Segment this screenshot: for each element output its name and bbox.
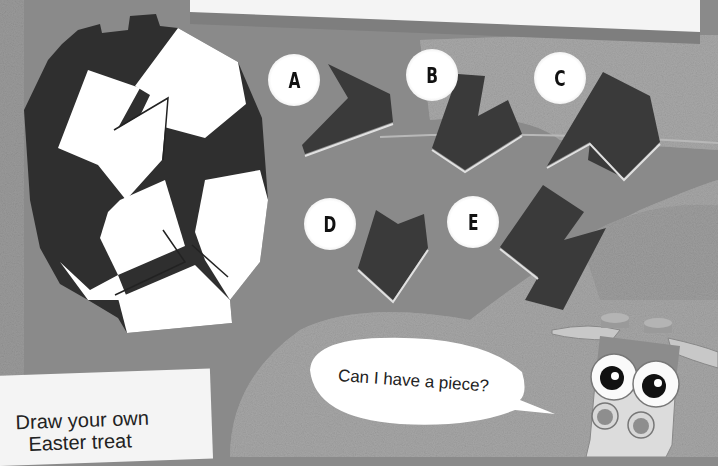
option-letter: D <box>324 212 336 237</box>
option-letter: E <box>468 210 478 235</box>
option-label-d[interactable]: D <box>304 198 356 250</box>
option-label-c[interactable]: C <box>534 52 586 104</box>
piece-d <box>358 210 428 300</box>
option-letter: A <box>288 68 299 93</box>
option-letter: C <box>555 66 566 91</box>
prompt-line-2: Easter treat <box>16 429 150 456</box>
option-label-b[interactable]: B <box>406 49 458 101</box>
prompt-card: Draw your own Easter treat <box>0 369 213 466</box>
egg-puzzle <box>24 14 268 333</box>
prompt-text: Draw your own Easter treat <box>15 407 150 456</box>
option-label-a[interactable]: A <box>268 54 320 106</box>
option-label-e[interactable]: E <box>447 196 499 248</box>
speckle-region-right <box>580 204 718 300</box>
option-letter: B <box>426 63 437 88</box>
